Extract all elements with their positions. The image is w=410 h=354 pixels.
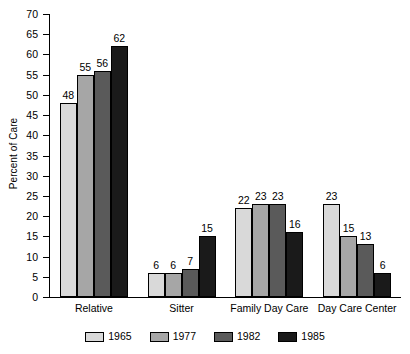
bar-chart: Percent of Care 706560555045403530252015… bbox=[0, 0, 410, 354]
y-tick-mark bbox=[43, 196, 49, 197]
y-tick-mark bbox=[43, 75, 49, 76]
y-tick-label: 65 bbox=[0, 29, 38, 39]
y-tick-label: 50 bbox=[0, 90, 38, 100]
y-tick-label: 60 bbox=[0, 49, 38, 59]
bar-group: 2315136 bbox=[323, 14, 391, 297]
legend-item-1965[interactable]: 1965 bbox=[85, 331, 131, 342]
y-tick-mark bbox=[43, 115, 49, 116]
bar bbox=[374, 273, 391, 297]
bar bbox=[235, 208, 252, 297]
bar-value-label: 23 bbox=[318, 191, 345, 202]
y-tick-mark bbox=[43, 216, 49, 217]
plot-area: 4855566266715222323162315136 bbox=[50, 14, 401, 297]
bar bbox=[148, 273, 165, 297]
legend-label: 1977 bbox=[173, 331, 196, 342]
y-tick-label: 0 bbox=[0, 292, 38, 302]
bar bbox=[286, 232, 303, 297]
y-tick-label: 10 bbox=[0, 252, 38, 262]
y-tick-mark bbox=[43, 176, 49, 177]
bar-value-label: 6 bbox=[369, 260, 396, 271]
legend-item-1985[interactable]: 1985 bbox=[278, 331, 324, 342]
legend-swatch-icon bbox=[278, 332, 297, 342]
bar bbox=[182, 269, 199, 297]
bar bbox=[323, 204, 340, 297]
y-tick-label: 35 bbox=[0, 151, 38, 161]
bar-value-label: 62 bbox=[106, 33, 133, 44]
bar bbox=[60, 103, 77, 297]
bar-value-label: 15 bbox=[194, 223, 221, 234]
y-tick-label: 25 bbox=[0, 191, 38, 201]
y-tick-mark bbox=[43, 54, 49, 55]
y-tick-label: 5 bbox=[0, 272, 38, 282]
y-tick-label: 55 bbox=[0, 70, 38, 80]
y-tick-mark bbox=[43, 95, 49, 96]
bar bbox=[269, 204, 286, 297]
legend-item-1982[interactable]: 1982 bbox=[214, 331, 260, 342]
bar-group: 48555662 bbox=[60, 14, 128, 297]
bar bbox=[340, 236, 357, 297]
y-tick-mark bbox=[43, 257, 49, 258]
legend-swatch-icon bbox=[150, 332, 169, 342]
legend-item-1977[interactable]: 1977 bbox=[150, 331, 196, 342]
bar bbox=[77, 75, 94, 297]
bar-value-label: 13 bbox=[352, 231, 379, 242]
bar bbox=[199, 236, 216, 297]
y-tick-mark bbox=[43, 236, 49, 237]
legend: 1965197719821985 bbox=[0, 331, 410, 342]
bar bbox=[111, 46, 128, 297]
y-tick-mark bbox=[43, 34, 49, 35]
y-tick-mark bbox=[43, 297, 49, 298]
y-tick-mark bbox=[43, 14, 49, 15]
y-tick-label: 30 bbox=[0, 171, 38, 181]
x-axis-line bbox=[49, 297, 401, 298]
bar-group: 22232316 bbox=[235, 14, 303, 297]
bar bbox=[94, 71, 111, 297]
x-axis-label-day-care-center: Day Care Center bbox=[297, 302, 410, 314]
bar-group: 66715 bbox=[148, 14, 216, 297]
bar-value-label: 23 bbox=[264, 191, 291, 202]
bar bbox=[165, 273, 182, 297]
y-tick-mark bbox=[43, 156, 49, 157]
legend-label: 1985 bbox=[301, 331, 324, 342]
legend-label: 1982 bbox=[237, 331, 260, 342]
legend-label: 1965 bbox=[108, 331, 131, 342]
y-tick-label: 40 bbox=[0, 130, 38, 140]
y-tick-label: 20 bbox=[0, 211, 38, 221]
y-tick-label: 70 bbox=[0, 9, 38, 19]
bar bbox=[252, 204, 269, 297]
y-tick-mark bbox=[43, 277, 49, 278]
y-tick-label: 45 bbox=[0, 110, 38, 120]
legend-swatch-icon bbox=[214, 332, 233, 342]
y-tick-mark bbox=[43, 135, 49, 136]
bar-value-label: 16 bbox=[281, 219, 308, 230]
legend-swatch-icon bbox=[85, 332, 104, 342]
y-tick-label: 15 bbox=[0, 231, 38, 241]
